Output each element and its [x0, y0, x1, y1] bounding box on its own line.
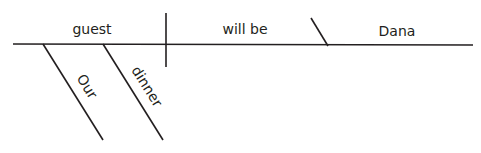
predicate-nominative-word: Dana	[379, 23, 416, 39]
modifier-word-dinner: dinner	[129, 63, 166, 110]
verb-word: will be	[222, 21, 267, 37]
modifier-word-our: Our	[74, 71, 101, 101]
complement-separator	[311, 18, 328, 46]
subject-word: guest	[72, 21, 112, 37]
sentence-diagram: guest will be Dana Our dinner	[0, 0, 481, 153]
baseline	[13, 44, 473, 45]
